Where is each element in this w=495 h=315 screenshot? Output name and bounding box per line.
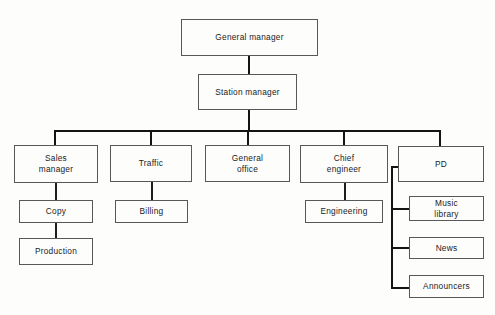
node-production[interactable]: Production	[19, 238, 93, 265]
connector-drop-traffic	[150, 130, 152, 146]
node-copy[interactable]: Copy	[19, 200, 93, 223]
node-label: Sales manager	[37, 153, 76, 175]
org-chart: General manager Station manager Sales ma…	[0, 0, 495, 315]
connector-drop-general-office	[247, 130, 249, 146]
node-station-manager[interactable]: Station manager	[198, 74, 297, 110]
node-sales-manager[interactable]: Sales manager	[14, 145, 98, 183]
node-label: Engineering	[318, 206, 369, 217]
connector-gm-to-sm	[248, 56, 250, 75]
node-label: Traffic	[137, 158, 165, 169]
node-pd[interactable]: PD	[398, 146, 484, 182]
node-label: Production	[33, 246, 79, 257]
connector-drop-sales-manager	[54, 130, 56, 146]
node-engineering[interactable]: Engineering	[305, 200, 383, 223]
node-label: Chief engineer	[325, 153, 363, 175]
connector-pd-stub-news	[391, 247, 410, 249]
connector-sm-stem	[248, 110, 250, 131]
connector-copy-to-production	[55, 222, 57, 239]
node-announcers[interactable]: Announcers	[409, 275, 484, 298]
node-billing[interactable]: Billing	[115, 200, 188, 223]
connector-pd-stub-announcers	[391, 287, 410, 289]
node-chief-engineer[interactable]: Chief engineer	[300, 145, 388, 183]
node-label: Station manager	[213, 87, 282, 98]
connector-drop-pd	[439, 130, 441, 147]
node-label: Announcers	[421, 281, 472, 292]
node-label: General office	[230, 153, 265, 175]
node-label: Billing	[138, 206, 166, 217]
connector-pd-trunk	[391, 166, 393, 288]
node-general-office[interactable]: General office	[205, 145, 290, 182]
node-traffic[interactable]: Traffic	[110, 145, 192, 182]
connector-drop-chief-engineer	[343, 130, 345, 146]
node-music-library[interactable]: Music library	[409, 196, 484, 221]
node-label: News	[434, 243, 460, 254]
node-label: PD	[433, 159, 449, 170]
node-label: General manager	[213, 32, 285, 43]
node-general-manager[interactable]: General manager	[181, 19, 318, 56]
connector-traffic-to-billing	[151, 182, 153, 201]
connector-pd-stub-music-library	[391, 208, 410, 210]
node-news[interactable]: News	[409, 237, 484, 259]
node-label: Music library	[432, 198, 460, 220]
node-label: Copy	[44, 206, 68, 217]
connector-sales-manager-to-copy	[55, 183, 57, 201]
connector-chief-engineer-to-engineering	[344, 183, 346, 201]
